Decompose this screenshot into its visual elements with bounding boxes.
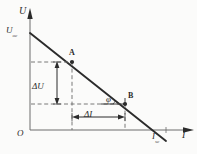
point-b-label: B — [128, 92, 133, 100]
y-intercept-subscript: oc — [13, 33, 18, 38]
y-axis-label: U — [19, 6, 26, 16]
y-axis-arrow-icon — [27, 8, 32, 19]
delta-i-arrow-left-icon — [72, 115, 79, 120]
x-intercept-label: Isc — [152, 132, 159, 143]
delta-i-arrow-right-icon — [118, 115, 125, 120]
delta-i-label: ΔI — [84, 110, 92, 119]
point-b-marker — [123, 102, 127, 106]
y-intercept-label: Uoc — [6, 26, 17, 37]
ui-characteristic-figure: U Uoc O I Isc A B ΔU ΔI φ — [0, 0, 197, 154]
origin-label: O — [17, 129, 24, 138]
point-a-marker — [70, 60, 74, 64]
x-axis-label: I — [182, 130, 185, 140]
angle-phi-label: φ — [106, 95, 111, 104]
characteristic-line — [30, 33, 166, 141]
figure-canvas — [0, 0, 197, 154]
delta-u-label: ΔU — [32, 82, 44, 91]
point-a-label: A — [69, 49, 75, 57]
y-intercept-symbol: U — [6, 25, 13, 35]
x-intercept-subscript: sc — [155, 139, 159, 144]
